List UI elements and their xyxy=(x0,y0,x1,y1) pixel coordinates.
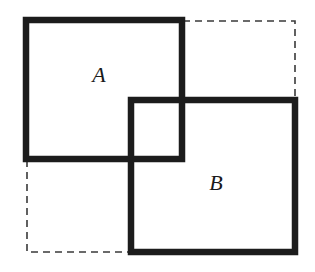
rectangle-a xyxy=(26,20,182,159)
rectangle-a-label: A xyxy=(92,64,105,86)
rectangle-b-label: B xyxy=(209,172,222,194)
diagram-canvas xyxy=(0,0,315,272)
dashed-bounding-box xyxy=(27,21,295,252)
